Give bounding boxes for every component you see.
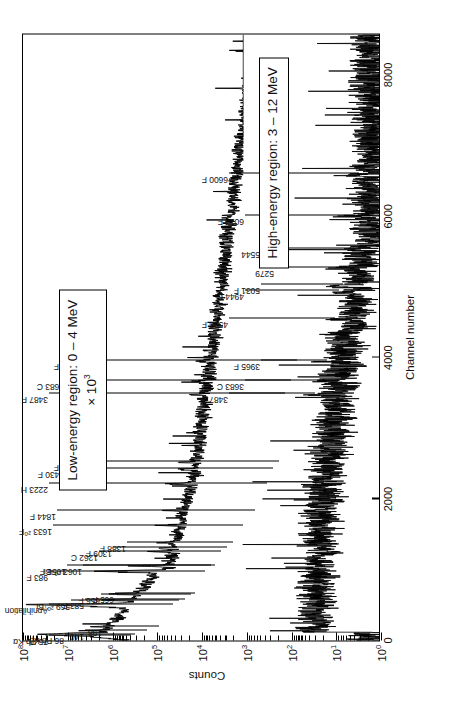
peak-annotation-low-3487-text: 3487 F (22, 394, 48, 404)
y-axis-minor-tick (212, 635, 213, 640)
y-axis-minor-tick (249, 635, 250, 640)
x-axis-tick (372, 215, 379, 216)
plot-area: 108107106105104103102101100 020004000600… (22, 33, 380, 641)
y-axis-minor-tick (144, 635, 145, 640)
x-axis-tick-label: 2000 (382, 486, 394, 510)
y-axis-title: Counts (177, 669, 237, 681)
y-axis-minor-tick (122, 635, 123, 640)
y-axis-minor-tick (323, 635, 324, 640)
peak-annotation-high-4555-leader (229, 317, 335, 318)
y-axis-minor-tick (119, 635, 120, 640)
y-axis-minor-tick (126, 635, 127, 640)
peak-annotation-high-5031-leader (261, 283, 343, 284)
y-axis-minor-tick (298, 635, 299, 640)
peak-annotation-low-1063-text: 1063 ²⁰⁷Bi (44, 566, 82, 576)
peak-annotation-high-6017-text: 6017 F (218, 216, 244, 226)
y-axis-tick-label: 100 (374, 644, 388, 661)
peak-annotation-high-3487-text: 3487 F (202, 394, 228, 404)
peak-annotation-low-140-text: 140 (70, 631, 84, 641)
x-axis-tick-label: 8000 (382, 62, 394, 86)
peak-annotation-high-3683-text: 3683 C (217, 381, 244, 391)
peak-annotation-low-198-leader (103, 625, 159, 626)
y-axis-tick-label: 106 (106, 644, 120, 661)
y-axis-minor-tick (167, 635, 168, 640)
y-axis-minor-tick (159, 635, 160, 640)
y-axis-minor-tick (115, 635, 116, 640)
y-axis-minor-tick (175, 635, 176, 640)
y-axis-minor-tick (309, 635, 310, 640)
y-axis-minor-tick (350, 635, 351, 640)
y-axis-tick (292, 632, 293, 640)
chart-figure: Counts Channel number 108107106105104103… (0, 0, 458, 705)
peak-annotation-high-3965-leader (261, 359, 327, 360)
y-axis-tick (202, 632, 203, 640)
y-axis-minor-tick (341, 635, 342, 640)
peak-annotation-low-1063-leader (83, 564, 215, 565)
y-axis-tick-label: 102 (285, 644, 299, 661)
peak-annotation-high-5544-text: 5544 (241, 249, 260, 259)
peak-annotation-low-1633-leader (53, 524, 243, 525)
y-axis-minor-tick (343, 635, 344, 640)
y-axis-minor-tick (225, 635, 226, 640)
y-axis-tick (336, 632, 337, 640)
y-axis-minor-tick (206, 635, 207, 640)
x-axis-tick-label: 4000 (382, 345, 394, 369)
peak-annotation-low-198-text: 198 (88, 627, 102, 637)
peak-annotation-low-2223-text: 2223 H (21, 484, 48, 494)
y-axis-minor-tick (296, 635, 297, 640)
peak-annotation-low-1844-leader (57, 509, 255, 510)
rotated-chart-canvas: Counts Channel number 108107106105104103… (0, 0, 458, 705)
y-axis-minor-tick (130, 635, 131, 640)
y-axis-minor-tick (251, 635, 252, 640)
y-axis-minor-tick (209, 635, 210, 640)
x-axis-tick (372, 497, 379, 498)
y-axis-minor-tick (220, 635, 221, 640)
y-axis-minor-tick (346, 635, 347, 640)
y-axis-tick-label: 103 (240, 644, 254, 661)
peak-annotation-high-3487-leader (229, 392, 315, 393)
y-axis-minor-tick (233, 635, 234, 640)
region-low-text: Low-energy region: 0 – 4 MeV (65, 299, 82, 480)
region-low-scale-base: × 10 (83, 379, 98, 406)
x-axis-tick-label: 6000 (382, 204, 394, 228)
x-axis-tick (372, 73, 379, 74)
y-axis-minor-tick (162, 635, 163, 640)
peak-annotation-low-1309-leader (113, 546, 227, 547)
y-axis-minor-tick (215, 635, 216, 640)
peak-annotation-high-4555-text: 4555 F (202, 319, 228, 329)
y-axis-minor-tick (254, 635, 255, 640)
y-axis-minor-tick (204, 635, 205, 640)
y-axis-minor-tick (257, 635, 258, 640)
y-axis-minor-tick (315, 635, 316, 640)
peak-annotation-low-1388-text: 1388 F (100, 543, 126, 553)
peak-annotation-high-3965-text: 3965 F (234, 361, 260, 371)
peak-annotation-low-665-leader (115, 592, 195, 593)
x-axis-tick-label: 0 (382, 637, 394, 643)
y-axis-minor-tick (368, 635, 369, 640)
region-label-low-energy: Low-energy region: 0 – 4 MeV × 103 (59, 289, 107, 490)
x-axis-title: Channel number (404, 33, 416, 641)
peak-annotation-low-2529-leader (81, 460, 279, 461)
peak-annotation-high-5031-text: 5031 F (234, 285, 260, 295)
peak-annotation-low-86-text: 86 Pb Kβ (29, 635, 64, 645)
peak-annotation-high-6600-leader (229, 172, 359, 173)
region-high-text: High-energy region: 3 – 12 MeV (265, 67, 282, 258)
y-axis-minor-tick (270, 635, 271, 640)
y-axis-minor-tick (86, 635, 87, 640)
peak-annotation-low-1844-text: 1844 F (30, 511, 56, 521)
region-low-scale-exp: 3 (82, 374, 92, 379)
x-axis-tick (372, 639, 379, 640)
peak-annotation-low-1633-text: 1633 ²⁰F (19, 526, 52, 536)
region-label-high-energy: High-energy region: 3 – 12 MeV (259, 57, 289, 268)
y-axis-tick-label: 101 (329, 644, 343, 661)
y-axis-minor-tick (338, 635, 339, 640)
y-axis-minor-tick (136, 635, 137, 640)
y-axis-minor-tick (181, 635, 182, 640)
peak-annotation-high-5279-text: 5279 (255, 268, 274, 278)
y-axis-minor-tick (189, 635, 190, 640)
y-axis-tick-label: 105 (150, 644, 164, 661)
y-axis-minor-tick (305, 635, 306, 640)
x-axis-tick (372, 356, 379, 357)
y-axis-minor-tick (260, 635, 261, 640)
y-axis-minor-tick (117, 635, 118, 640)
